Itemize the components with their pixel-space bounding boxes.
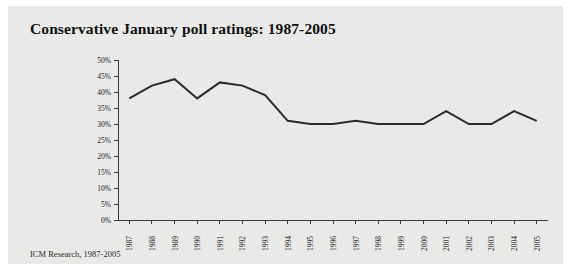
chart-figure: Conservative January poll ratings: 1987-… [8, 6, 563, 264]
x-tick-label: 2002 [465, 236, 474, 251]
x-tick-label: 2000 [420, 236, 429, 251]
y-tick-label: 35% [97, 104, 111, 113]
y-tick-label: 45% [97, 72, 111, 81]
plot-area: 0%5%10%15%20%25%30%35%40%45%50%198719881… [96, 54, 556, 254]
x-tick-label: 1996 [329, 236, 338, 251]
source-caption: ICM Research, 1987-2005 [30, 249, 120, 259]
x-tick-label: 1989 [171, 236, 180, 251]
x-tick-label: 2005 [533, 236, 542, 251]
x-tick-label: 1990 [193, 236, 202, 251]
x-tick-label: 1987 [125, 236, 134, 251]
x-tick-label: 1994 [284, 236, 293, 251]
y-tick-label: 15% [97, 168, 111, 177]
series-line-conservative [129, 79, 536, 124]
y-tick-label: 0% [101, 216, 111, 225]
x-tick-label: 2003 [487, 236, 496, 251]
line-chart-svg: 0%5%10%15%20%25%30%35%40%45%50%198719881… [96, 54, 556, 254]
y-tick-label: 30% [97, 120, 111, 129]
x-tick-label: 1992 [238, 236, 247, 251]
y-tick-label: 50% [97, 56, 111, 65]
x-tick-label: 1988 [148, 236, 157, 251]
y-tick-label: 5% [101, 200, 111, 209]
y-tick-label: 25% [97, 136, 111, 145]
x-tick-label: 2004 [510, 236, 519, 251]
page-title: Conservative January poll ratings: 1987-… [30, 20, 336, 38]
x-tick-label: 2001 [442, 236, 451, 251]
y-tick-label: 20% [97, 152, 111, 161]
x-tick-label: 1991 [216, 236, 225, 251]
y-tick-label: 10% [97, 184, 111, 193]
x-tick-label: 1998 [374, 236, 383, 251]
y-tick-label: 40% [97, 88, 111, 97]
x-tick-label: 1995 [306, 236, 315, 251]
x-tick-label: 1999 [397, 236, 406, 251]
x-tick-label: 1993 [261, 236, 270, 251]
x-tick-label: 1997 [352, 236, 361, 251]
